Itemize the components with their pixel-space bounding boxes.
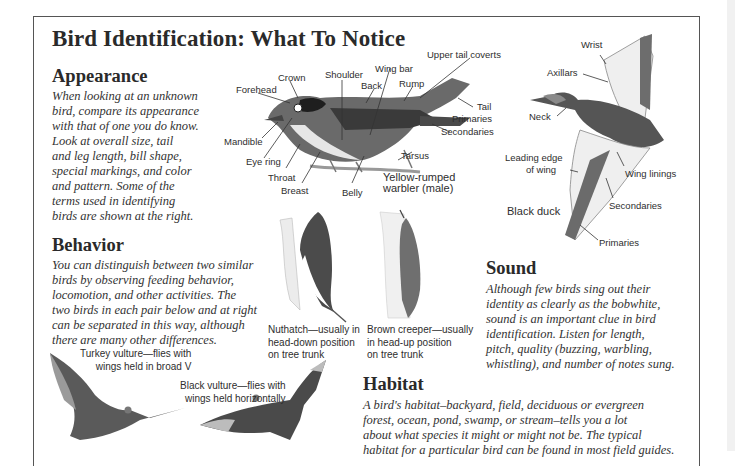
- turkey-vulture-caption: Turkey vulture—flies with wings held in …: [80, 348, 191, 373]
- label-forehead: Forehead: [236, 84, 277, 95]
- appearance-line: special markings, and color: [52, 164, 199, 179]
- nuthatch-caption: Nuthatch—usually in head-down position o…: [268, 324, 360, 362]
- label-shoulder: Shoulder: [325, 69, 363, 80]
- turkey-vulture-caption-line: Turkey vulture—flies with: [80, 348, 191, 361]
- label-axillars: Axillars: [547, 67, 578, 78]
- habitat-line: about what species it might or might not…: [363, 428, 674, 443]
- sound-line: identity as clearly as the bobwhite,: [486, 297, 675, 312]
- brown-creeper-illustration: [380, 210, 420, 318]
- appearance-line: Look at overall size, tail: [52, 134, 199, 149]
- sound-line: whistling), and number of notes sung.: [486, 357, 675, 372]
- creeper-caption-line: in head-up position: [367, 337, 473, 350]
- sound-heading: Sound: [486, 258, 536, 279]
- label-upper-tail-coverts: Upper tail coverts: [427, 49, 501, 60]
- label-tail: Tail: [477, 101, 491, 112]
- behavior-line: locomotion, and other activities. The: [52, 288, 257, 303]
- black-vulture-caption: Black vulture—flies with wings held hori…: [180, 380, 286, 405]
- label-belly: Belly: [342, 187, 363, 198]
- behavior-line: there are many other differences.: [52, 333, 257, 348]
- appearance-body: When looking at an unknown bird, compare…: [52, 89, 199, 224]
- label-wrist: Wrist: [581, 39, 602, 50]
- black-vulture-caption-line: wings held horizontally: [180, 393, 286, 406]
- behavior-line: You can distinguish between two similar: [52, 258, 257, 273]
- appearance-line: and pattern. Some of the: [52, 179, 199, 194]
- sound-line: identification. Listen for length,: [486, 327, 675, 342]
- appearance-heading: Appearance: [52, 66, 148, 87]
- label-mandible: Mandible: [224, 136, 263, 147]
- appearance-line: terms used in identifying: [52, 194, 199, 209]
- appearance-line: with that of one you do know.: [52, 119, 199, 134]
- habitat-line: habitat for a particular bird can be fou…: [363, 443, 674, 458]
- sound-line: pitch, quality (buzzing, warbling,: [486, 342, 675, 357]
- creeper-caption-line: Brown creeper—usually: [367, 324, 473, 337]
- habitat-heading: Habitat: [363, 374, 424, 395]
- label-back: Back: [361, 80, 382, 91]
- label-wing-bar: Wing bar: [375, 63, 413, 74]
- nuthatch-caption-line: head-down position: [268, 337, 360, 350]
- habitat-line: A bird's habitat–backyard, field, decidu…: [363, 398, 674, 413]
- behavior-heading: Behavior: [52, 235, 124, 256]
- habitat-line: forest, ocean, pond, swamp, or stream–te…: [363, 413, 674, 428]
- behavior-line: two birds in each pair below and at righ…: [52, 303, 257, 318]
- behavior-body: You can distinguish between two similar …: [52, 258, 257, 348]
- label-neck: Neck: [529, 111, 551, 122]
- page-title: Bird Identification: What To Notice: [52, 26, 405, 52]
- appearance-line: When looking at an unknown: [52, 89, 199, 104]
- sound-line: Although few birds sing out their: [486, 282, 675, 297]
- label-duck-primaries: Primaries: [599, 237, 639, 248]
- appearance-line: birds are shown at the right.: [52, 209, 199, 224]
- nuthatch-caption-line: Nuthatch—usually in: [268, 324, 360, 337]
- behavior-line: birds by observing feeding behavior,: [52, 273, 257, 288]
- label-wing-linings: Wing linings: [625, 168, 676, 179]
- appearance-line: bird, compare its appearance: [52, 104, 199, 119]
- nuthatch-illustration: [280, 212, 346, 322]
- behavior-line: can be separated in this way, although: [52, 318, 257, 333]
- label-crown: Crown: [278, 72, 305, 83]
- label-eye-ring: Eye ring: [246, 156, 281, 167]
- brown-creeper-caption: Brown creeper—usually in head-up positio…: [367, 324, 473, 362]
- nuthatch-caption-line: on tree trunk: [268, 349, 360, 362]
- label-primaries: Primaries: [452, 113, 492, 124]
- habitat-body: A bird's habitat–backyard, field, decidu…: [363, 398, 674, 458]
- black-vulture-caption-line: Black vulture—flies with: [180, 380, 286, 393]
- label-leading-edge-2: of wing: [526, 164, 556, 175]
- label-leading-edge-1: Leading edge: [505, 152, 563, 163]
- appearance-line: and leg length, bill shape,: [52, 149, 199, 164]
- turkey-vulture-caption-line: wings held in broad V: [80, 361, 191, 374]
- warbler-caption-line: warbler (male): [383, 183, 455, 194]
- label-rump: Rump: [399, 78, 424, 89]
- label-duck-secondaries: Secondaries: [609, 200, 662, 211]
- creeper-caption-line: on tree trunk: [367, 349, 473, 362]
- label-throat: Throat: [268, 172, 295, 183]
- label-breast: Breast: [281, 185, 308, 196]
- duck-caption: Black duck: [507, 205, 560, 218]
- sound-body: Although few birds sing out their identi…: [486, 282, 675, 372]
- label-secondaries: Secondaries: [441, 126, 494, 137]
- warbler-caption: Yellow-rumped warbler (male): [383, 172, 455, 194]
- label-tarsus: Tarsus: [401, 150, 429, 161]
- sound-line: sound is an important clue in bird: [486, 312, 675, 327]
